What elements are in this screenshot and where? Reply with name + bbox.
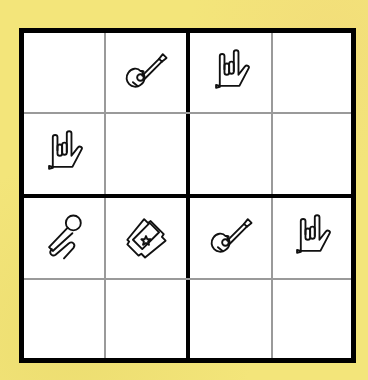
cell-r1-c4[interactable] <box>273 33 351 112</box>
rock-hand-icon <box>203 43 259 103</box>
cell-r2-c2[interactable] <box>104 112 188 196</box>
cell-r4-c1[interactable] <box>24 280 104 358</box>
cell-r2-c3[interactable] <box>188 112 273 196</box>
cell-r4-c2[interactable] <box>104 280 188 358</box>
cell-r2-c4[interactable] <box>273 112 351 196</box>
cell-r1-c1[interactable] <box>24 33 104 112</box>
microphone-icon <box>36 208 92 268</box>
cell-r4-c4[interactable] <box>273 280 351 358</box>
cell-r3-c1[interactable] <box>24 196 104 280</box>
rock-hand-icon <box>284 208 340 268</box>
cell-r3-c4[interactable] <box>273 196 351 280</box>
cell-r3-c2[interactable] <box>104 196 188 280</box>
guitar-icon <box>118 43 174 103</box>
guitar-icon <box>203 208 259 268</box>
cell-r1-c2[interactable] <box>104 33 188 112</box>
sudoku-board <box>19 28 356 363</box>
rock-hand-icon <box>36 124 92 184</box>
cell-r3-c3[interactable] <box>188 196 273 280</box>
ticket-icon <box>118 208 174 268</box>
cell-r1-c3[interactable] <box>188 33 273 112</box>
cell-r4-c3[interactable] <box>188 280 273 358</box>
cell-r2-c1[interactable] <box>24 112 104 196</box>
